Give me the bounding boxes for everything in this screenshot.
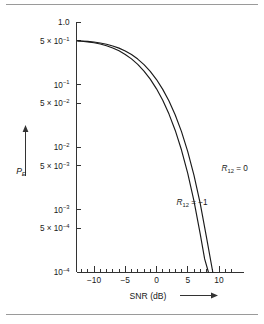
y-axis-arrow-head: [23, 125, 29, 132]
y-tick-labels: 1.05 × 10−110−15 × 10−210−25 × 10−310−35…: [40, 18, 70, 277]
y-tick-label: 5 × 10−3: [40, 161, 70, 171]
x-axis-group: [77, 266, 245, 273]
y-tick-label: 5 × 10−4: [40, 223, 70, 233]
x-tick-label: 0: [154, 275, 159, 285]
x-tick-label: −10: [87, 275, 102, 285]
y-tick-label: 5 × 10−2: [40, 98, 70, 108]
x-tick-label: −5: [120, 275, 130, 285]
y-tick-label: 1.0: [58, 18, 70, 27]
data-curves: [78, 41, 213, 272]
figure-container: 1.05 × 10−110−15 × 10−210−25 × 10−310−35…: [0, 0, 264, 324]
x-axis-arrow-head: [211, 293, 218, 299]
curve-label: R12 = 0: [222, 164, 249, 174]
y-tick-marks: [77, 22, 82, 272]
y-tick-label: 10−4: [54, 267, 70, 277]
x-tick-label: 10: [214, 275, 224, 285]
curve-line: [78, 41, 213, 272]
y-axis-group: [77, 22, 82, 272]
curve-label: R12 = −1: [177, 198, 208, 208]
x-tick-marks: [82, 266, 232, 272]
x-tick-label: 5: [185, 275, 190, 285]
chart-svg: 1.05 × 10−110−15 × 10−210−25 × 10−310−35…: [0, 0, 264, 324]
y-tick-label: 10−1: [54, 79, 70, 89]
x-axis-title-group: SNR (dB): [130, 291, 218, 301]
y-tick-label: 5 × 10−1: [40, 36, 70, 46]
x-tick-labels: −10−50510: [87, 275, 224, 285]
x-axis-title: SNR (dB): [130, 291, 167, 301]
y-axis-title-group: PE: [16, 125, 28, 177]
y-tick-label: 10−3: [54, 204, 70, 214]
y-tick-label: 10−2: [54, 142, 70, 152]
